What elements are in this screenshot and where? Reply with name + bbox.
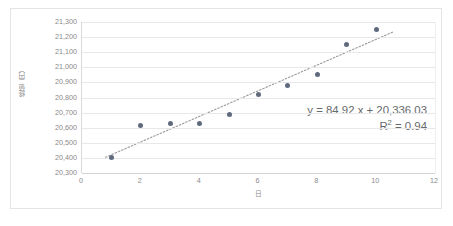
chart-frame: 終値（円） 21,30021,20021,10021,00020,90020,8…	[10, 8, 442, 209]
y-axis-tick-label: 20,800	[55, 94, 77, 101]
y-axis-tick-label: 20,900	[55, 78, 77, 85]
gridline	[82, 158, 435, 159]
y-axis-tick-label: 20,500	[55, 139, 77, 146]
gridline	[82, 82, 435, 83]
y-axis-tick-label: 20,600	[55, 124, 77, 131]
y-axis-tick-label: 21,000	[55, 63, 77, 70]
gridline	[82, 143, 435, 144]
y-axis-tick-label: 20,300	[55, 169, 77, 176]
x-axis-tick-label: 2	[138, 177, 142, 184]
gridline	[82, 22, 435, 23]
x-axis-tick-labels: 024681012	[81, 177, 436, 191]
r2-prefix: R	[379, 120, 387, 132]
gridline	[82, 113, 435, 114]
gridline	[82, 173, 435, 174]
data-point[interactable]	[256, 92, 261, 97]
y-axis-title: 終値（円）	[19, 67, 31, 97]
trendline-annotation: y = 84.92 x + 20,336.03 R2 = 0.94	[257, 104, 427, 134]
x-axis-tick-label: 6	[256, 177, 260, 184]
data-point[interactable]	[374, 27, 379, 32]
gridline	[82, 67, 435, 68]
x-axis-tick-label: 4	[197, 177, 201, 184]
gridline	[82, 98, 435, 99]
data-point[interactable]	[227, 112, 232, 117]
gridline	[82, 52, 435, 53]
x-axis-tick-label: 8	[314, 177, 318, 184]
y-axis-tick-label: 21,300	[55, 18, 77, 25]
x-axis-tick-label: 0	[79, 177, 83, 184]
y-axis-tick-label: 21,200	[55, 33, 77, 40]
gridline	[82, 128, 435, 129]
y-axis-tick-label: 21,100	[55, 48, 77, 55]
gridline	[82, 37, 435, 38]
y-axis-tick-label: 20,700	[55, 109, 77, 116]
x-axis-tick-label: 12	[430, 177, 438, 184]
x-axis-title: 日	[81, 191, 436, 198]
x-axis-tick-label: 10	[371, 177, 379, 184]
plot-area: y = 84.92 x + 20,336.03 R2 = 0.94	[81, 22, 436, 173]
trendline-equation-label: y = 84.92 x + 20,336.03	[257, 104, 427, 118]
r2-value: = 0.94	[392, 120, 427, 132]
y-axis-tick-label: 20,400	[55, 154, 77, 161]
trendline-r2-label: R2 = 0.94	[257, 118, 427, 134]
y-axis-tick-labels: 21,30021,20021,10021,00020,90020,80020,7…	[35, 22, 77, 173]
